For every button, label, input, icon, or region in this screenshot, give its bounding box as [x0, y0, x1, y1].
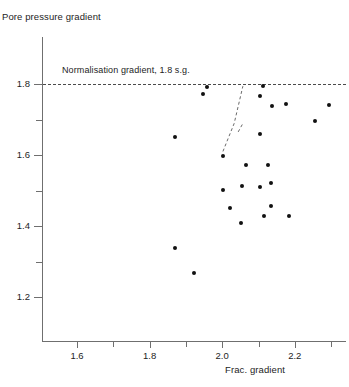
data-point — [173, 135, 177, 139]
data-point — [258, 185, 262, 189]
data-point — [201, 92, 205, 96]
data-point — [221, 154, 225, 158]
data-point — [262, 214, 266, 218]
data-point — [287, 214, 291, 218]
data-point — [284, 102, 288, 106]
data-point — [173, 246, 177, 250]
data-point — [205, 85, 209, 89]
data-point — [270, 104, 274, 108]
data-point — [244, 163, 248, 167]
data-point — [269, 181, 273, 185]
data-point — [192, 271, 196, 275]
data-point — [269, 204, 273, 208]
data-point — [266, 163, 270, 167]
scatter-chart-figure: Pore pressure gradient Frac. gradient 1.… — [0, 0, 349, 387]
data-point — [228, 206, 232, 210]
data-point — [327, 103, 331, 107]
data-point — [240, 184, 244, 188]
data-point — [239, 221, 243, 225]
data-point — [258, 132, 262, 136]
data-point — [261, 84, 265, 88]
data-point — [258, 94, 262, 98]
data-point — [221, 188, 225, 192]
plot-area — [0, 0, 349, 387]
data-point — [313, 119, 317, 123]
